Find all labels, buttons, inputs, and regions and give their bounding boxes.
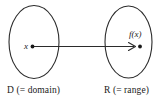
function-mapping-figure: x f(x) D (= domain) R (= range)	[0, 0, 164, 100]
range-ellipse	[105, 6, 152, 78]
input-element-label: x	[24, 42, 28, 51]
domain-ellipse	[9, 6, 59, 79]
range-caption: R (= range)	[104, 86, 149, 96]
output-element-label: f(x)	[129, 30, 142, 39]
output-point-dot	[138, 45, 142, 49]
input-point-dot	[31, 45, 35, 49]
domain-caption: D (= domain)	[7, 86, 60, 96]
